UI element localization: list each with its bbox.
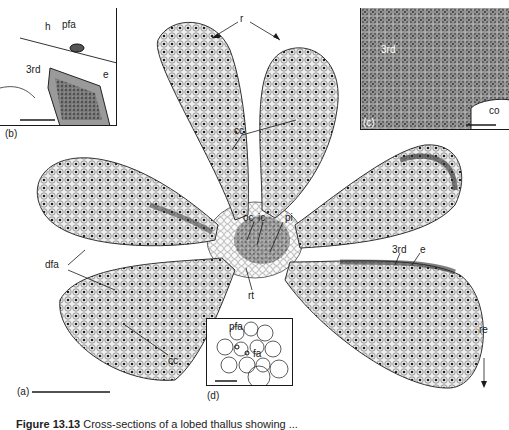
inset-c-label-co: co xyxy=(489,106,500,116)
caption-text: Cross-sections of a lobed thallus showin… xyxy=(83,418,298,430)
inset-b-label-e: e xyxy=(103,70,109,80)
inset-b-micrograph xyxy=(0,8,117,126)
label-re: re xyxy=(479,325,488,335)
inset-c-micrograph xyxy=(361,8,509,130)
label-rt: rt xyxy=(248,291,254,301)
inset-d: pfa fa xyxy=(206,318,293,386)
label-pi: pi xyxy=(285,213,293,223)
panel-label-b: (b) xyxy=(5,128,17,139)
figure-caption: Figure 13.13 Cross-sections of a lobed t… xyxy=(16,418,298,430)
figure: r cc oc ic pi dfa cc rt 3rd e re (a) h p… xyxy=(0,0,509,405)
inset-d-label-fa: fa xyxy=(253,349,261,359)
label-ic: ic xyxy=(258,213,265,223)
label-dfa: dfa xyxy=(45,260,59,270)
inset-b: h pfa 3rd e xyxy=(0,8,117,126)
inset-b-label-pfa: pfa xyxy=(62,20,76,30)
label-cc-upper: cc xyxy=(234,126,244,136)
inset-c: 3rd co (c) xyxy=(360,8,509,130)
label-oc: oc xyxy=(243,213,254,223)
label-3rd: 3rd xyxy=(392,245,406,255)
lobe-upper-right xyxy=(260,48,338,218)
panel-label-a: (a) xyxy=(17,386,29,397)
panel-label-c: (c) xyxy=(363,118,375,128)
inset-d-micrograph xyxy=(207,319,293,386)
label-cc-lower: cc xyxy=(168,356,178,366)
lobe-lower-right xyxy=(285,261,483,388)
caption-label: Figure 13.13 xyxy=(16,418,80,430)
label-r: r xyxy=(240,14,243,24)
inset-b-label-h: h xyxy=(45,22,51,32)
lobe-left xyxy=(37,158,218,246)
inset-d-label-pfa: pfa xyxy=(229,322,243,332)
panel-label-d: (d) xyxy=(207,390,219,401)
inset-b-label-3rd: 3rd xyxy=(26,65,40,75)
inset-c-label-3rd: 3rd xyxy=(381,45,395,55)
label-e: e xyxy=(420,245,426,255)
